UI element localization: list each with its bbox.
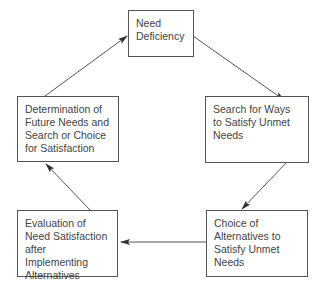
arrow-search-to-choice	[242, 162, 287, 209]
node-determination: Determination of Future Needs and Search…	[17, 96, 119, 162]
node-choice-of-alternatives: Choice of Alternatives to Satisfy Unmet …	[206, 210, 308, 277]
arrow-evaluation-to-determination	[46, 164, 90, 210]
need-cycle-diagram: Need Deficiency Search for Ways to Satis…	[0, 0, 320, 289]
node-evaluation: Evaluation of Need Satisfaction after Im…	[17, 210, 118, 277]
arrow-need-to-search	[193, 36, 284, 100]
arrow-determination-to-need	[45, 36, 127, 96]
node-need-deficiency: Need Deficiency	[128, 10, 194, 57]
node-search-for-ways: Search for Ways to Satisfy Unmet Needs	[205, 96, 309, 163]
